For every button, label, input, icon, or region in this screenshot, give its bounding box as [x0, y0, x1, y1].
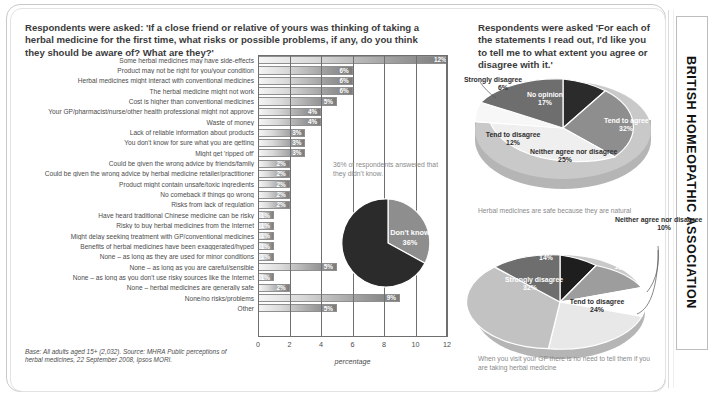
- pie2-label-no-opinion-value: 14%: [539, 254, 553, 261]
- pie1-label-tend-to-agree-value: 32%: [619, 125, 633, 132]
- pie-chart-2-svg: [462, 222, 667, 372]
- pie2-label-strongly-disagree-value: 32%: [523, 284, 537, 291]
- bar-chart-x-axis-title: percentage: [258, 357, 447, 366]
- bar-row-track: 6%: [258, 76, 447, 86]
- bar-value-label: 6%: [340, 77, 349, 85]
- x-axis-tick-label: 8: [382, 340, 386, 349]
- bar-row-label: Lack of reliable information about produ…: [22, 129, 258, 136]
- bar-row: The herbal medicine might not work6%: [22, 86, 447, 96]
- bar-value-label: 2%: [277, 201, 286, 209]
- donut-caption: 36% of respondents answered that they di…: [333, 160, 441, 178]
- pie-chart-2-caption: When you visit your GP there is no need …: [478, 355, 656, 372]
- bar-value-label: 5%: [324, 98, 333, 106]
- bar-value-label: 1%: [261, 212, 270, 220]
- poster-page: BRITISH HOMEOPATHIC ASSOCIATION Responde…: [0, 0, 714, 395]
- bar-row: Might get 'ripped off'3%: [22, 148, 447, 158]
- bar-row-label: The herbal medicine might not work: [22, 88, 258, 95]
- bar-row-track: 3%: [258, 127, 447, 137]
- bar-row-label: Cost is higher than conventional medicin…: [22, 98, 258, 105]
- bar-row-track: 5%: [258, 96, 447, 106]
- bar-row-label: Might get 'ripped off': [22, 150, 258, 157]
- bar-row-label: Herbal medicines might interact with con…: [22, 77, 258, 84]
- bar-row-track: 5%: [258, 303, 447, 313]
- bar-row: You don't know for sure what you are get…: [22, 138, 447, 148]
- pie1-label-strongly-disagree-text: Strongly disagree: [464, 76, 522, 83]
- bar-row: Herbal medicines might interact with con…: [22, 76, 447, 86]
- bar-row-label: Might delay seeking treatment with GP/co…: [22, 233, 258, 240]
- bar-row-track: 9%: [258, 293, 447, 303]
- pie2-label-neither: Neither agree nor disagree 10%: [615, 216, 671, 233]
- bar-row-label: Product might contain unsafe/toxic ingre…: [22, 181, 258, 188]
- bar-value-label: 1%: [261, 253, 270, 261]
- bar-row-track: 6%: [258, 65, 447, 75]
- bar-value-label: 1%: [261, 274, 270, 282]
- bar: [258, 294, 400, 302]
- pie1-label-tend-to-disagree-value: 12%: [506, 139, 520, 146]
- bar-row-label: Product may not be right for you/your co…: [22, 67, 258, 74]
- bar-value-label: 6%: [340, 87, 349, 95]
- bar-value-label: 2%: [277, 170, 286, 178]
- brand-sidebar-inner: BRITISH HOMEOPATHIC ASSOCIATION: [681, 21, 701, 343]
- bar-row-label: You don't know for sure what you are get…: [22, 139, 258, 146]
- bar-row-label: Could be given the wrong advice by herba…: [22, 170, 258, 177]
- bar: [258, 87, 353, 95]
- dont-know-label: Don't know 36%: [388, 228, 432, 247]
- pie-chart-1-caption: Herbal medicines are safe because they a…: [478, 207, 658, 216]
- bar-row-label: None – as long as you don't use risky so…: [22, 274, 258, 281]
- bar-value-label: 5%: [324, 305, 333, 313]
- pie1-label-no-opinion: No opinion 17%: [519, 91, 571, 108]
- bar-row-label: None – as long as they are used for mino…: [22, 253, 258, 260]
- bar-row: Product might contain unsafe/toxic ingre…: [22, 179, 447, 189]
- bar-row-label: None – as long as you are careful/sensib…: [22, 264, 258, 271]
- bar-row-track: 6%: [258, 86, 447, 96]
- bar-row-track: 3%: [258, 148, 447, 158]
- pie1-label-tend-to-agree-text: Tend to agree: [604, 117, 649, 124]
- bar-row-label: Benefits of herbal medicines have been e…: [22, 243, 258, 250]
- pie1-label-neither-text: Neither agree nor disagree: [530, 148, 617, 155]
- pie2-label-neither-text: Neither agree nor disagree: [615, 216, 702, 223]
- pie2-label-tend-to-disagree-text: Tend to disagree: [570, 298, 625, 305]
- bar-row-track: 4%: [258, 107, 447, 117]
- bar-row: Product may not be right for you/your co…: [22, 65, 447, 75]
- bar-row-label: Some herbal medicines may have side-effe…: [22, 57, 258, 64]
- question-heading-left: Respondents were asked: 'If a close frie…: [25, 22, 430, 59]
- bar: [258, 56, 447, 64]
- bar-row-label: No comeback if things go wrong: [22, 191, 258, 198]
- pie2-label-tend-to-disagree-value: 24%: [590, 306, 604, 313]
- bar-value-label: 5%: [324, 263, 333, 271]
- bar-value-label: 2%: [277, 284, 286, 292]
- bar-value-label: 2%: [277, 191, 286, 199]
- bar-row: Some herbal medicines may have side-effe…: [22, 55, 447, 65]
- bar-row-label: Your GP/pharmacist/nurse/other health pr…: [22, 108, 258, 115]
- x-axis-tick-label: 12: [443, 340, 451, 349]
- bar-value-label: 3%: [292, 139, 301, 147]
- pie-chart-tell-gp: [462, 222, 667, 372]
- bar-row-track: 3%: [258, 138, 447, 148]
- bar-value-label: 12%: [434, 56, 447, 64]
- bar-value-label: 4%: [308, 108, 317, 116]
- bar-value-label: 4%: [308, 118, 317, 126]
- pie2-label-no-opinion: No opinion 14%: [521, 246, 571, 263]
- bar-row: Waste of money4%: [22, 117, 447, 127]
- bar-row-track: 4%: [258, 117, 447, 127]
- bar-value-label: 6%: [340, 67, 349, 75]
- pie1-label-neither-value: 25%: [558, 156, 572, 163]
- bar-row: None/no risks/problems9%: [22, 293, 447, 303]
- pie2-label-neither-value: 10%: [657, 224, 671, 231]
- x-axis-tick-label: 0: [256, 340, 260, 349]
- bar-row-track: 2%: [258, 179, 447, 189]
- pie1-label-no-opinion-value: 17%: [538, 99, 552, 106]
- bar-row-label: None – herbal medicines are generally sa…: [22, 284, 258, 291]
- pie1-label-tend-to-agree: Tend to agree 32%: [604, 117, 648, 134]
- pie1-label-strongly-disagree: Strongly disagree 6%: [464, 76, 508, 93]
- bar-row: Lack of reliable information about produ…: [22, 127, 447, 137]
- bar: [258, 77, 353, 85]
- bar-row-label: Could be given the wrong advice by frien…: [22, 160, 258, 167]
- bar-row-label: None/no risks/problems: [22, 295, 258, 302]
- bar-value-label: 3%: [292, 129, 301, 137]
- x-axis-tick-label: 4: [319, 340, 323, 349]
- pie1-label-strongly-disagree-value: 6%: [498, 84, 508, 91]
- bar-value-label: 3%: [292, 149, 301, 157]
- brand-name: BRITISH HOMEOPATHIC ASSOCIATION: [684, 56, 698, 309]
- pie2-leader-line-1: [647, 246, 659, 292]
